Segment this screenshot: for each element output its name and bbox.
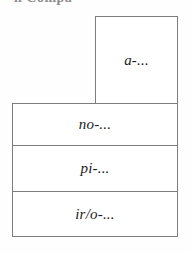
pi-block-row: pi-... (13, 145, 177, 191)
no-block-label: no-... (79, 116, 111, 133)
page-header-fragment: n Compa (14, 0, 134, 5)
iro-block-label: ir/o-... (75, 206, 115, 223)
a-block-label: a-... (124, 52, 149, 69)
block-stack: no-... pi-... ir/o-... (12, 103, 178, 237)
a-block-box: a-... (95, 16, 178, 104)
iro-block-row: ir/o-... (13, 191, 177, 236)
pi-block-label: pi-... (80, 160, 109, 177)
figure-root: n Compa a-... no-... pi-... ir/o-... (0, 0, 191, 253)
no-block-row: no-... (13, 104, 177, 145)
